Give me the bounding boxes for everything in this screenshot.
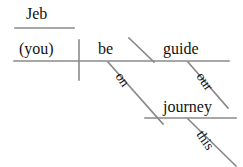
verb-label: be: [98, 41, 113, 57]
sentence-diagram: Jeb (you) be guide journey on our this: [0, 0, 243, 167]
prep-object-label: journey: [163, 99, 212, 115]
subject-label: (you): [19, 41, 54, 57]
preposition-slant-line: [108, 62, 163, 124]
complement-slant-line: [129, 38, 154, 62]
complement-label: guide: [163, 41, 199, 57]
vocative-label: Jeb: [26, 6, 47, 22]
